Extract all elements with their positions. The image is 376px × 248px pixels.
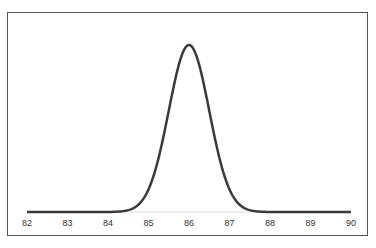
x-tick-label: 87	[224, 218, 234, 228]
density-curve	[27, 45, 351, 212]
x-tick-label: 84	[103, 218, 113, 228]
x-tick-label: 86	[184, 218, 194, 228]
x-tick-label: 85	[143, 218, 153, 228]
x-tick-label: 83	[62, 218, 72, 228]
x-tick-label: 89	[305, 218, 315, 228]
x-tick-label: 90	[346, 218, 356, 228]
chart: 828384858687888990	[0, 0, 376, 248]
x-tick-label: 88	[265, 218, 275, 228]
x-tick-label: 82	[22, 218, 32, 228]
